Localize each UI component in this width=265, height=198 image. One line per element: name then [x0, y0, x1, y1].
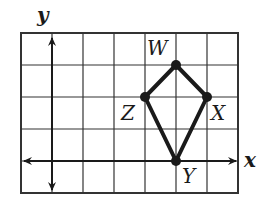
- y-axis-label: y: [36, 3, 50, 27]
- coordinate-plane: y x W X Y Z: [0, 0, 265, 198]
- label-x: X: [209, 101, 226, 125]
- label-y: Y: [182, 164, 197, 188]
- label-w: W: [147, 36, 169, 60]
- x-axis-label: x: [243, 148, 257, 172]
- label-z: Z: [120, 101, 136, 125]
- vertex-z: [140, 92, 150, 102]
- vertex-y: [171, 156, 181, 166]
- vertex-w: [171, 60, 181, 70]
